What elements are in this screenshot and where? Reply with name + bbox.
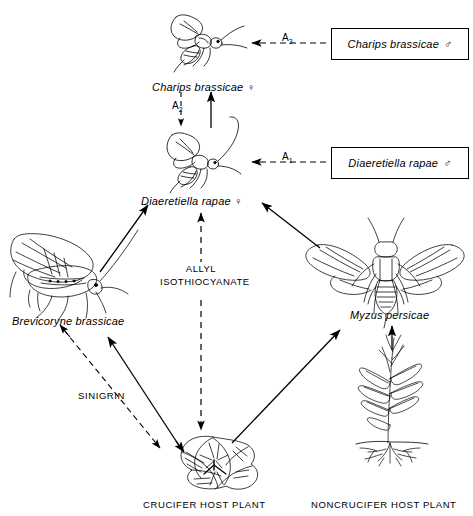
myzus-label: Myzus persicae: [350, 310, 429, 321]
edge-sinigrin-dashed-double-arrow: [60, 325, 160, 448]
noncrucifer-plant-illustration: [356, 335, 428, 466]
edge-crucifer-to-myzus-arrow: [232, 330, 340, 443]
diagram-canvas: Charips brassicae ♀ Diaeretiella rapae ♀…: [0, 0, 473, 516]
diaeretiella-male-box: Diaeretiella rapae ♂: [331, 147, 469, 179]
diaeretiella-female-label: Diaeretiella rapae ♀: [141, 196, 243, 207]
edge-brevicoryne-to-diaeretiella-arrow: [100, 205, 148, 272]
charips-male-box: Charips brassicae ♂: [331, 28, 469, 60]
diagram-vector-layer: [0, 0, 473, 516]
charips-female-illustration: [171, 15, 247, 72]
sinigrin-label: SINIGRIN: [78, 391, 125, 401]
pheromone-label-a3: A3: [282, 33, 293, 45]
pheromone-label-a2: A2: [172, 101, 183, 113]
charips-female-label: Charips brassicae ♀: [152, 82, 255, 93]
allyl-label-line2: ISOTHIOCYANATE: [160, 277, 244, 287]
allyl-label-line1: ALLYL: [183, 264, 219, 274]
edge-myzus-to-diaeretiella-arrow: [262, 203, 320, 248]
crucifer-host-plant-label: CRUCIFER HOST PLANT: [143, 500, 266, 510]
cabbage-illustration: [181, 436, 258, 489]
diaeretiella-female-illustration: [167, 117, 241, 193]
brevicoryne-label: Brevicoryne brassicae: [12, 316, 124, 327]
brevicoryne-illustration: [10, 230, 138, 320]
noncrucifer-host-plant-label: NONCRUCIFER HOST PLANT: [311, 500, 457, 510]
pheromone-label-a1: A1: [282, 152, 293, 164]
